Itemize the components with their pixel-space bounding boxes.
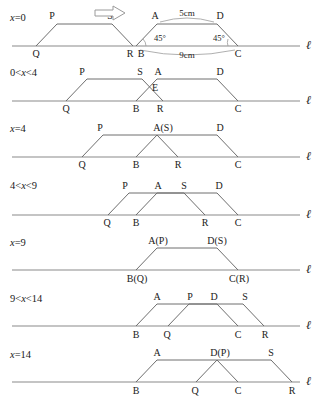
stage-0-graphic: P S A D Q R B C 5cm 9cm 45° 45° — [0, 0, 326, 58]
case-label-1: 0<x<4 — [10, 67, 37, 78]
label-P: P — [122, 180, 128, 191]
line-label-0: ℓ — [306, 38, 311, 53]
label-A-S: A(S) — [153, 122, 172, 134]
arc-angle-left — [143, 39, 146, 46]
trapezoid-pqrs — [66, 79, 163, 101]
arc-top-5cm — [160, 18, 214, 22]
line-label-3: ℓ — [306, 207, 311, 222]
case-label-5: 9<x<14 — [10, 293, 42, 304]
stage-row-0: P S A D Q R B C 5cm 9cm 45° 45° x=0 ℓ — [0, 0, 326, 58]
line-label-6: ℓ — [306, 374, 311, 389]
label-Q: Q — [103, 217, 111, 228]
label-B: B — [133, 159, 140, 170]
line-label-5: ℓ — [306, 318, 311, 333]
stage-row-1: P S A D E Q B R C 0<x<4 ℓ — [0, 58, 326, 114]
stage-row-4: A(P) D(S) B(Q) C(R) x=9 ℓ — [0, 228, 326, 284]
trapezoid-pqrs — [108, 193, 205, 215]
label-R: R — [127, 48, 134, 58]
case-label-3: 4<x<9 — [10, 180, 37, 191]
label-R: R — [262, 329, 269, 340]
trapezoid-abcd — [136, 304, 238, 326]
label-C: C — [235, 159, 242, 170]
label-C: C — [235, 103, 242, 114]
line-label-1: ℓ — [306, 93, 311, 108]
case-label-0: x=0 — [10, 12, 26, 23]
label-C-R: C(R) — [229, 273, 249, 284]
label-D: D — [216, 122, 223, 133]
label-B: B — [138, 48, 145, 58]
label-A: A — [154, 66, 162, 77]
stage-5-graphic: A P D S B Q C R — [0, 284, 326, 340]
stage-row-6: A D(P) S B Q C R x=14 ℓ — [0, 340, 326, 396]
label-R: R — [157, 103, 164, 114]
trapezoid-pqrs — [168, 304, 264, 326]
angle-right: 45° — [213, 33, 225, 43]
label-D: D — [216, 66, 223, 77]
label-C: C — [235, 329, 242, 340]
label-B: B — [133, 385, 140, 396]
stage-row-5: A P D S B Q C R 9<x<14 ℓ — [0, 284, 326, 340]
label-S: S — [137, 66, 143, 77]
label-C: C — [235, 217, 242, 228]
trapezoid-pqrs — [36, 24, 133, 46]
label-R: R — [202, 217, 209, 228]
diagram-canvas: P S A D Q R B C 5cm 9cm 45° 45° x=0 ℓ P … — [0, 0, 326, 396]
label-Q: Q — [78, 159, 86, 170]
label-B: B — [133, 217, 140, 228]
trapezoid-abcd — [136, 360, 238, 382]
label-A: A — [154, 180, 162, 191]
case-label-4: x=9 — [10, 237, 26, 248]
label-D-S: D(S) — [207, 235, 226, 247]
label-C: C — [235, 385, 242, 396]
label-B: B — [133, 329, 140, 340]
stage-6-graphic: A D(P) S B Q C R — [0, 340, 326, 396]
label-Q: Q — [163, 329, 171, 340]
label-C: C — [235, 48, 242, 58]
label-A-P: A(P) — [148, 235, 167, 247]
trapezoid-overlapped — [136, 248, 238, 270]
stage-row-3: P A S D Q B R C 4<x<9 ℓ — [0, 170, 326, 228]
label-P: P — [97, 122, 103, 133]
trapezoid-abcd — [136, 135, 238, 157]
label-Q: Q — [62, 103, 70, 114]
angle-left: 45° — [154, 33, 166, 43]
label-Q: Q — [32, 48, 40, 58]
label-P: P — [79, 66, 85, 77]
dimension-top: 5cm — [179, 8, 195, 18]
label-B: B — [133, 103, 140, 114]
label-A: A — [151, 10, 159, 21]
label-Q: Q — [191, 385, 199, 396]
label-S: S — [242, 291, 248, 302]
label-B-Q: B(Q) — [127, 273, 148, 284]
label-P: P — [187, 291, 193, 302]
line-label-2: ℓ — [306, 149, 311, 164]
stage-2-graphic: P A(S) D Q B R C — [0, 114, 326, 170]
label-D: D — [216, 10, 223, 21]
label-S: S — [268, 347, 274, 358]
trapezoid-pqrs — [82, 135, 178, 157]
label-S: S — [181, 180, 187, 191]
label-D-P: D(P) — [210, 347, 229, 359]
line-label-4: ℓ — [306, 262, 311, 277]
label-A: A — [153, 347, 161, 358]
arc-angle-right — [227, 39, 228, 46]
label-D: D — [210, 291, 217, 302]
case-label-6: x=14 — [10, 349, 31, 360]
dimension-base: 9cm — [179, 50, 195, 58]
stage-row-2: P A(S) D Q B R C x=4 ℓ — [0, 114, 326, 170]
label-A: A — [153, 291, 161, 302]
stage-3-graphic: P A S D Q B R C — [0, 170, 326, 228]
trapezoid-pqrs — [196, 360, 292, 382]
stage-4-graphic: A(P) D(S) B(Q) C(R) — [0, 228, 326, 284]
label-E: E — [152, 82, 158, 93]
label-D: D — [215, 180, 222, 191]
label-R: R — [175, 159, 182, 170]
label-R: R — [289, 385, 296, 396]
label-P: P — [49, 10, 55, 21]
case-label-2: x=4 — [10, 123, 26, 134]
stage-1-graphic: P S A D E Q B R C — [0, 58, 326, 114]
